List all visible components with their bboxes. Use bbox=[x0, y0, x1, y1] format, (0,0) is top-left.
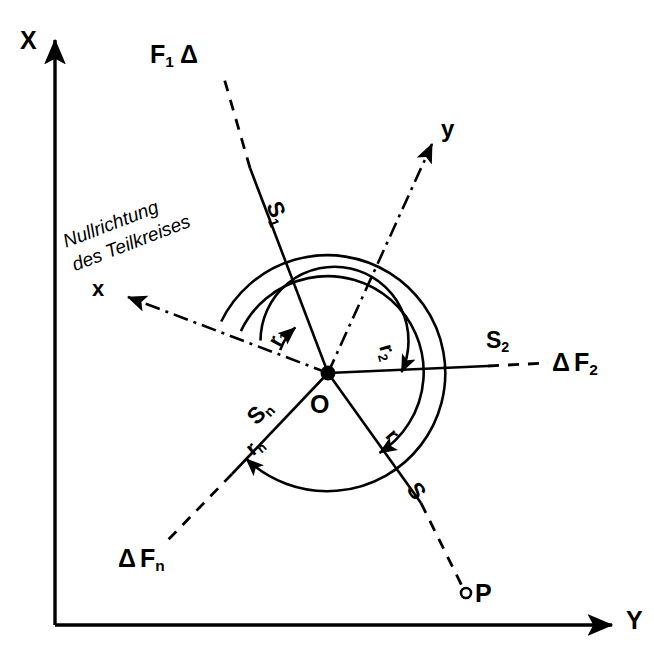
fn-delta-icon: Δ bbox=[118, 544, 136, 572]
ray-s2-solid bbox=[328, 366, 488, 373]
f2-delta-icon: Δ bbox=[552, 348, 570, 376]
diagram-vector-layer bbox=[0, 0, 654, 652]
target-label-f1: F1Δ bbox=[150, 42, 198, 70]
point-p-marker bbox=[461, 588, 471, 598]
ray-s2-dashed bbox=[488, 363, 548, 366]
diagram-canvas: X Y y x Nullrichtung des Teilkreises O S… bbox=[0, 0, 654, 652]
target-label-f2: ΔF2 bbox=[552, 350, 598, 378]
target-label-fn: ΔFn bbox=[118, 546, 165, 574]
s2-main: S bbox=[486, 327, 501, 353]
f1-main: F bbox=[150, 40, 165, 68]
ray-s-solid bbox=[328, 373, 421, 503]
direction-label-s2: S2 bbox=[486, 329, 509, 354]
station-label-o: O bbox=[310, 392, 329, 417]
local-y-axis-label: y bbox=[441, 117, 454, 141]
f1-sub: 1 bbox=[165, 53, 174, 70]
f2-main: F bbox=[574, 348, 589, 376]
fn-main: F bbox=[140, 544, 155, 572]
axis-x-label: X bbox=[20, 28, 37, 53]
global-axes bbox=[55, 40, 612, 625]
target-label-p: P bbox=[475, 581, 492, 606]
station-point-marker bbox=[321, 366, 336, 381]
ray-sn-dashed bbox=[168, 474, 232, 540]
ray-sn-solid bbox=[232, 373, 328, 474]
fn-sub: n bbox=[155, 557, 164, 574]
ray-s-dashed bbox=[421, 503, 463, 588]
f1-delta-icon: Δ bbox=[180, 40, 198, 68]
ray-s1-dashed bbox=[224, 78, 250, 168]
f2-sub: 2 bbox=[589, 361, 598, 378]
axis-y-label: Y bbox=[626, 608, 643, 633]
s2-sub: 2 bbox=[501, 339, 509, 355]
local-x-axis-label: x bbox=[92, 278, 104, 300]
